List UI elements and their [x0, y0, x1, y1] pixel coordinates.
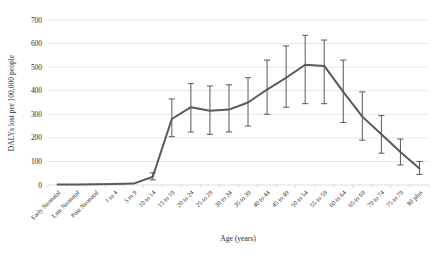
x-axis-tick-label: 30 to 34 [213, 188, 233, 208]
x-axis-tick-label: 20 to 24 [175, 188, 195, 208]
chart-container: 0100200300400500600700 Early NeonatalLat… [0, 0, 437, 259]
x-axis-tick-label: 65 to 69 [346, 189, 366, 209]
x-axis-tick-label: 5 to 9 [122, 189, 137, 204]
x-axis-tick-label: 80 plus [405, 188, 423, 206]
x-axis-tick-label: 45 to 49 [270, 189, 290, 209]
x-axis-tick-label: 60 to 64 [327, 188, 347, 208]
y-axis-tick-label: 700 [31, 16, 42, 25]
y-axis-tick-label: 400 [31, 86, 42, 95]
x-axis-tick-label: 25 to 29 [194, 189, 214, 209]
x-axis-tick-label: 50 to 54 [289, 188, 309, 208]
y-axis-title: DALYs lost per 100,000 people [7, 54, 16, 151]
data-series-line [58, 65, 420, 185]
x-axis-tick-label: 1 to 4 [103, 188, 119, 204]
x-axis-tick-label: 75 to 79 [385, 189, 405, 209]
y-axis-tick-label: 600 [31, 39, 42, 48]
x-axis-tick-label: 40 to 44 [251, 188, 271, 208]
x-axis-tick-label: 10 to 14 [137, 188, 157, 208]
y-axis-tick-label: 300 [31, 110, 42, 119]
gridlines-group [48, 20, 429, 185]
line-chart-with-error-bars: 0100200300400500600700 Early NeonatalLat… [0, 0, 437, 259]
y-axis-tick-label: 500 [31, 63, 42, 72]
x-axis-tick-label: 70 to 74 [366, 188, 386, 208]
x-axis-title: Age (years) [220, 234, 256, 243]
x-axis-tick-label: 35 to 39 [232, 189, 252, 209]
x-axis-tick-label: 15 to 19 [156, 189, 176, 209]
x-axis-tick-marks [48, 185, 429, 188]
y-axis-tick-label: 100 [31, 157, 42, 166]
y-axis-tick-label: 0 [38, 181, 42, 190]
y-axis-tick-labels: 0100200300400500600700 [31, 16, 42, 190]
x-axis-tick-labels: Early NeonatalLate NeonatalPost Neonatal… [29, 188, 423, 221]
x-axis-tick-label: 55 to 59 [308, 189, 328, 209]
y-axis-tick-label: 200 [31, 133, 42, 142]
